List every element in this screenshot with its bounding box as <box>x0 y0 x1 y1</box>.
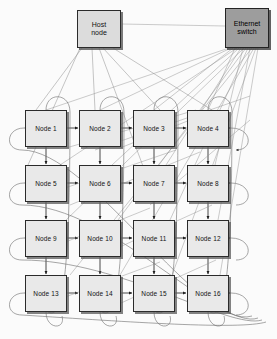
node-box[interactable]: Node 9 <box>25 220 67 257</box>
node-label: Node 13 <box>33 290 58 297</box>
node-box[interactable]: Node 14 <box>79 275 121 312</box>
node-box[interactable]: Node 6 <box>79 165 121 202</box>
node-label: Node 9 <box>35 235 57 242</box>
node-box[interactable]: Node 15 <box>133 275 175 312</box>
host-node-box[interactable]: Host node <box>77 10 121 48</box>
node-box[interactable]: Node 1 <box>25 110 67 147</box>
node-label: Node 5 <box>35 180 57 187</box>
node-label: Node 1 <box>35 125 57 132</box>
node-label: Node 12 <box>195 235 220 242</box>
node-label: Node 4 <box>197 125 219 132</box>
node-box[interactable]: Node 16 <box>187 275 229 312</box>
ethernet-switch-label-line2: switch <box>234 28 260 36</box>
node-box[interactable]: Node 8 <box>187 165 229 202</box>
node-label: Node 7 <box>143 180 165 187</box>
ethernet-switch-box[interactable]: Ethernet switch <box>225 8 269 48</box>
bottom-wraparound-curves <box>46 312 225 326</box>
node-box[interactable]: Node 5 <box>25 165 67 202</box>
node-label: Node 8 <box>197 180 219 187</box>
node-box[interactable]: Node 10 <box>79 220 121 257</box>
node-box[interactable]: Node 13 <box>25 275 67 312</box>
node-label: Node 16 <box>195 290 220 297</box>
host-node-label-line1: Host <box>91 21 107 29</box>
node-label: Node 3 <box>143 125 165 132</box>
node-box[interactable]: Node 11 <box>133 220 175 257</box>
node-label: Node 15 <box>141 290 166 297</box>
node-box[interactable]: Node 2 <box>79 110 121 147</box>
node-label: Node 11 <box>142 235 167 242</box>
node-label: Node 6 <box>89 180 111 187</box>
node-box[interactable]: Node 12 <box>187 220 229 257</box>
node-label: Node 10 <box>87 235 112 242</box>
node-box[interactable]: Node 4 <box>187 110 229 147</box>
node-box[interactable]: Node 3 <box>133 110 175 147</box>
node-label: Node 2 <box>89 125 111 132</box>
ethernet-switch-label-line1: Ethernet <box>234 20 260 28</box>
node-label: Node 14 <box>87 290 112 297</box>
node-box[interactable]: Node 7 <box>133 165 175 202</box>
host-node-label-line2: node <box>91 29 107 37</box>
